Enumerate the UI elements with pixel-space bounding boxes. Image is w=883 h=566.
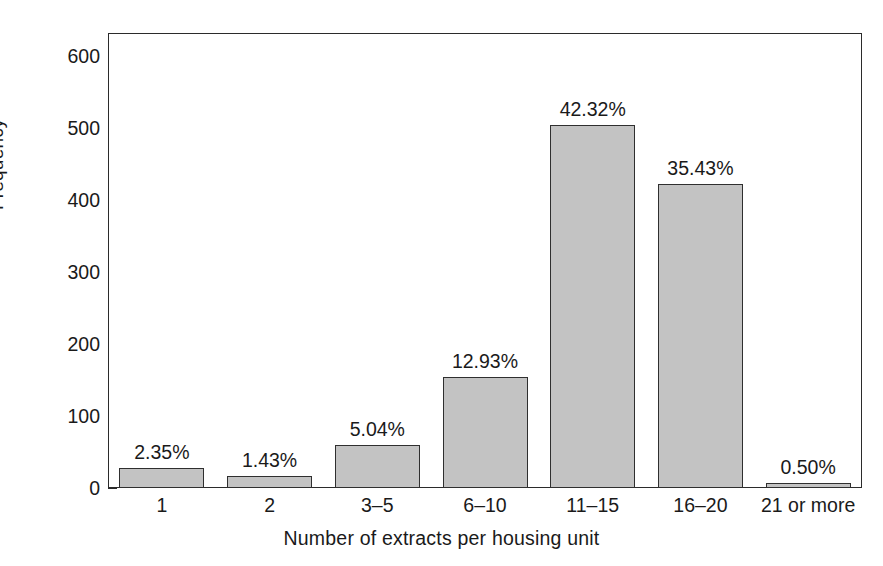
bar-value-label: 42.32% xyxy=(523,98,663,121)
bar xyxy=(227,476,312,488)
y-axis-tick-label: 300 xyxy=(52,261,100,284)
bar-value-label: 12.93% xyxy=(415,350,555,373)
bar xyxy=(119,468,204,488)
bar-chart: Frequency 0100200300400500600 2.35%1.43%… xyxy=(0,0,883,566)
x-axis-title: Number of extracts per housing unit xyxy=(0,527,883,550)
y-axis-tick-label: 200 xyxy=(52,333,100,356)
bar-value-label: 0.50% xyxy=(738,456,878,479)
bar xyxy=(443,377,528,488)
bar xyxy=(766,483,851,488)
bar xyxy=(335,445,420,488)
bar-value-label: 35.43% xyxy=(630,157,770,180)
y-axis-tick-label: 500 xyxy=(52,117,100,140)
y-axis-tick-label: 100 xyxy=(52,405,100,428)
bar-value-label: 1.43% xyxy=(200,449,340,472)
bar xyxy=(550,125,635,488)
y-axis-title: Frequency xyxy=(0,50,8,210)
y-axis-tick-label: 400 xyxy=(52,189,100,212)
x-axis-tick-label: 21 or more xyxy=(728,494,883,517)
y-axis-tick-label: 600 xyxy=(52,45,100,68)
bar xyxy=(658,184,743,488)
bar-value-label: 5.04% xyxy=(307,418,447,441)
